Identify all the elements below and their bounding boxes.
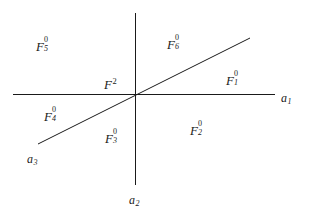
region-label-f5-base: F <box>36 39 44 54</box>
region-label-f5-scripts: 05 <box>44 38 50 51</box>
region-label-f4: F04 <box>44 108 58 124</box>
region-label-f1: F01 <box>226 72 240 88</box>
axis-label-a1-sub: 1 <box>288 97 292 106</box>
region-label-f6-scripts: 06 <box>175 36 181 49</box>
region-label-f1-scripts: 01 <box>234 72 240 85</box>
axis-label-a1: a1 <box>281 89 292 106</box>
region-label-f2-sup: 0 <box>198 120 202 128</box>
region-label-f2-center: F2 <box>104 76 117 92</box>
axis-label-a3-sub: 3 <box>34 158 38 167</box>
region-label-f4-sup: 0 <box>52 106 56 114</box>
region-label-f6-base: F <box>167 37 175 52</box>
region-label-f1-sub: 1 <box>234 79 238 87</box>
diagram-canvas <box>0 0 310 214</box>
region-label-f3-sub: 3 <box>113 137 117 145</box>
region-label-f4-scripts: 04 <box>52 108 58 121</box>
region-label-f2-center-base: F <box>104 77 112 92</box>
region-diagram-figure: F05 F06 F01 F2 F04 F03 F02 a1 a2 a3 <box>0 0 310 214</box>
region-label-f4-sub: 4 <box>52 115 56 123</box>
region-label-f5-sub: 5 <box>44 45 48 53</box>
axis-label-a3: a3 <box>27 150 38 167</box>
axis-label-a3-base: a <box>27 152 33 166</box>
axis-label-a2-base: a <box>129 193 135 207</box>
region-label-f5-sup: 0 <box>44 36 48 44</box>
region-label-f2-sub: 2 <box>198 129 202 137</box>
axis-label-a2-sub: 2 <box>136 199 140 208</box>
diagonal-axis-line <box>38 38 250 144</box>
axis-label-a2: a2 <box>129 191 140 208</box>
region-label-f1-base: F <box>226 73 234 88</box>
region-label-f2-scripts: 02 <box>198 122 204 135</box>
region-label-f2-base: F <box>190 123 198 138</box>
region-label-f3: F03 <box>105 130 119 146</box>
region-label-f3-scripts: 03 <box>113 130 119 143</box>
region-label-f2: F02 <box>190 122 204 138</box>
region-label-f2-center-sup: 2 <box>112 76 116 86</box>
region-label-f3-base: F <box>105 131 113 146</box>
region-label-f1-sup: 0 <box>234 70 238 78</box>
region-label-f5: F05 <box>36 38 50 54</box>
region-label-f6-sup: 0 <box>175 34 179 42</box>
region-label-f6: F06 <box>167 36 181 52</box>
region-label-f4-base: F <box>44 109 52 124</box>
region-label-f3-sup: 0 <box>113 128 117 136</box>
axis-label-a1-base: a <box>281 91 287 105</box>
region-label-f6-sub: 6 <box>175 43 179 51</box>
